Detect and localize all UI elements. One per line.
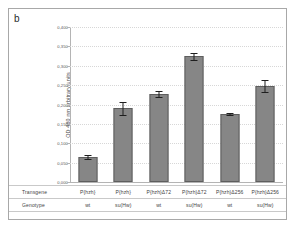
label-row: TransgeneP{hzh}P{hzh}P{hzh}Δ72P{hzh}Δ72P… — [9, 185, 286, 198]
bar-group — [106, 27, 142, 182]
category-cell: P{hzh} — [106, 189, 142, 195]
plot-area — [70, 27, 283, 182]
error-bar-cap-lower — [84, 159, 91, 160]
error-bar-cap-lower — [191, 60, 198, 61]
error-bar-line — [123, 102, 124, 114]
row-header: Transgene — [22, 189, 47, 195]
figure-panel: b OD 480 nm arbitrary units 0,4000,3500,… — [0, 0, 296, 230]
bar-group — [248, 27, 284, 182]
panel-label: b — [14, 13, 20, 24]
category-cell: wt — [70, 202, 106, 208]
error-bar-cap-upper — [84, 155, 91, 156]
table-rule — [9, 185, 286, 186]
error-bar-line — [265, 80, 266, 92]
category-cell: su(Hw) — [248, 202, 284, 208]
table-rule — [9, 198, 286, 199]
bar — [114, 108, 133, 182]
table-rule — [9, 211, 286, 212]
bar — [78, 157, 97, 182]
error-bar-cap-upper — [120, 102, 127, 103]
error-bar-cap-upper — [155, 91, 162, 92]
category-cell: wt — [141, 202, 177, 208]
bar — [220, 114, 239, 182]
error-bar-cap-lower — [262, 92, 269, 93]
category-cell: P{hzh}Δ256 — [248, 189, 284, 195]
error-bar-cap-lower — [120, 115, 127, 116]
row-header: Genotype — [22, 202, 45, 208]
category-cell: P{hzh}Δ72 — [177, 189, 213, 195]
category-cell: P{hzh}Δ72 — [141, 189, 177, 195]
bar — [185, 56, 204, 182]
category-cell: P{hzh} — [70, 189, 106, 195]
category-cell: su(Hw) — [106, 202, 142, 208]
error-bar-cap-upper — [226, 113, 233, 114]
bar — [256, 86, 275, 182]
error-bar-cap-upper — [262, 80, 269, 81]
label-row: Genotypewtsu(Hw)wtsu(Hw)wtsu(Hw) — [9, 198, 286, 211]
bar-group — [212, 27, 248, 182]
y-axis-tick-labels: 0,4000,3500,3000,2500,2000,1500,1000,050… — [42, 27, 68, 182]
bar-group — [70, 27, 106, 182]
category-cell: wt — [212, 202, 248, 208]
error-bar-line — [194, 53, 195, 60]
error-bar-cap-lower — [155, 97, 162, 98]
error-bar-cap-upper — [191, 53, 198, 54]
category-cell: su(Hw) — [177, 202, 213, 208]
bar-group — [177, 27, 213, 182]
error-bar-cap-lower — [226, 115, 233, 116]
bar-group — [141, 27, 177, 182]
bar — [149, 94, 168, 182]
category-cell: P{hzh}Δ256 — [212, 189, 248, 195]
category-label-table: TransgeneP{hzh}P{hzh}P{hzh}Δ72P{hzh}Δ72P… — [9, 182, 286, 219]
